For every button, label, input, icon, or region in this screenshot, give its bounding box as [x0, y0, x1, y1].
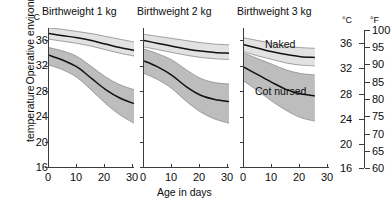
fahrenheit-tick-label: 70 [372, 129, 384, 140]
panel-title: Birthweight 2 kg [137, 5, 212, 17]
celsius-tick [359, 68, 364, 69]
fahrenheit-tick [365, 168, 370, 169]
celsius-tick-label: 16 [340, 163, 352, 174]
x-tick-label: 10 [165, 172, 177, 183]
x-axis-title: Age in days [157, 186, 212, 198]
y-tick [45, 91, 48, 92]
panel-birthweight-1kg: Birthweight 1 kg 0 10 20 30 [48, 28, 134, 168]
panel-plot-area [144, 28, 230, 168]
secondary-axis-unit-celsius: °C [342, 16, 352, 25]
fahrenheit-tick [365, 47, 370, 48]
y-tick [240, 66, 243, 67]
x-tick-label: 20 [193, 172, 205, 183]
fahrenheit-tick [365, 99, 370, 100]
fahrenheit-tick-label: 75 [372, 111, 384, 122]
y-tick [140, 40, 143, 41]
panel-birthweight-2kg: Birthweight 2 kg 0 10 20 30 [143, 28, 229, 168]
secondary-axis: °C °F 36 32 28 24 20 16 100 95 90 85 80 … [338, 16, 391, 188]
fahrenheit-tick-label: 90 [372, 59, 384, 70]
fahrenheit-tick-label: 65 [372, 146, 384, 157]
x-tick-label: 0 [140, 172, 146, 183]
fahrenheit-tick [365, 151, 370, 152]
fahrenheit-tick-label: 95 [372, 42, 384, 53]
fahrenheit-tick [365, 30, 370, 31]
y-tick [140, 142, 143, 143]
celsius-tick [359, 94, 364, 95]
panel-plot-area [49, 28, 135, 168]
celsius-tick-label: 36 [340, 38, 352, 49]
fahrenheit-tick [365, 64, 370, 65]
y-tick [45, 40, 48, 41]
x-tick-label: 30 [321, 172, 333, 183]
y-tick [240, 40, 243, 41]
chart-figure: Operative environmental temperature °C 3… [0, 0, 391, 204]
fahrenheit-tick [365, 82, 370, 83]
x-tick-label: 30 [126, 172, 138, 183]
fahrenheit-tick-label: 100 [372, 25, 390, 36]
fahrenheit-tick [365, 134, 370, 135]
celsius-tick [359, 119, 364, 120]
x-tick-label: 20 [293, 172, 305, 183]
x-tick-label: 20 [98, 172, 110, 183]
series-label-cot-nursed: Cot nursed [255, 85, 306, 97]
celsius-tick-label: 32 [340, 63, 352, 74]
celsius-tick [359, 168, 364, 169]
band-cot-nursed [49, 48, 134, 124]
celsius-tick [359, 43, 364, 44]
celsius-tick [359, 144, 364, 145]
y-tick [240, 117, 243, 118]
celsius-tick-label: 20 [340, 139, 352, 150]
x-tick-label: 0 [240, 172, 246, 183]
y-tick [45, 117, 48, 118]
x-tick-label: 10 [70, 172, 82, 183]
panel-title: Birthweight 1 kg [42, 5, 117, 17]
fahrenheit-tick-label: 60 [372, 163, 384, 174]
fahrenheit-tick [365, 116, 370, 117]
fahrenheit-tick-label: 80 [372, 94, 384, 105]
fahrenheit-tick-label: 85 [372, 77, 384, 88]
celsius-tick-label: 28 [340, 89, 352, 100]
panel-birthweight-3kg: Birthweight 3 kg 0 10 20 30 [243, 28, 329, 168]
y-tick [240, 91, 243, 92]
y-tick [45, 142, 48, 143]
panel-title: Birthweight 3 kg [237, 5, 312, 17]
x-tick-label: 30 [221, 172, 233, 183]
x-tick-label: 0 [45, 172, 51, 183]
series-label-naked: Naked [265, 38, 295, 50]
y-tick [240, 142, 243, 143]
band-cot-nursed [144, 49, 229, 123]
y-tick [140, 91, 143, 92]
y-tick [140, 117, 143, 118]
y-tick [45, 66, 48, 67]
y-tick [140, 66, 143, 67]
x-tick-label: 10 [265, 172, 277, 183]
celsius-tick-label: 24 [340, 114, 352, 125]
